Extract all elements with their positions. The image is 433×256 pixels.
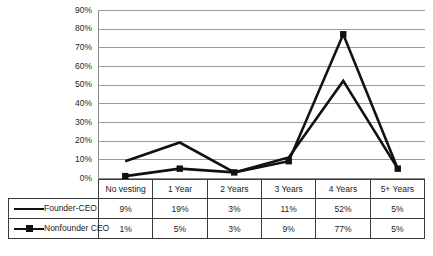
table-row: Nonfounder CEO1%5%3%9%77%5% xyxy=(9,219,424,238)
table-cell-value: 11% xyxy=(262,199,316,218)
data-table: Founder-CEO9%19%3%11%52%5%Nonfounder CEO… xyxy=(8,198,425,239)
line-chart: 0%10%20%30%40%50%60%70%80%90% No vesting… xyxy=(0,0,433,256)
category-label: 3 Years xyxy=(262,180,316,198)
legend-swatch-icon xyxy=(14,223,44,235)
table-cell-value: 1% xyxy=(99,219,153,238)
y-axis-tick-label: 70% xyxy=(75,43,92,52)
y-axis-tick-label: 10% xyxy=(75,155,92,164)
table-cell-value: 9% xyxy=(99,199,153,218)
table-cell-value: 5% xyxy=(371,199,424,218)
series-marker xyxy=(231,169,237,175)
table-cell-value: 3% xyxy=(208,219,262,238)
y-axis-tick-label: 20% xyxy=(75,136,92,145)
category-label: 5+ Years xyxy=(371,180,424,198)
table-cell-value: 5% xyxy=(153,219,207,238)
series-marker xyxy=(286,158,292,164)
y-axis-tick-label: 90% xyxy=(75,6,92,15)
table-cell-value: 77% xyxy=(316,219,370,238)
y-axis-tick-label: 0% xyxy=(80,174,92,183)
legend-label: Founder-CEO xyxy=(44,204,97,213)
y-axis-tick-label: 60% xyxy=(75,62,92,71)
table-cell-value: 9% xyxy=(262,219,316,238)
y-axis-tick-labels: 0%10%20%30%40%50%60%70%80%90% xyxy=(60,0,96,188)
series-marker xyxy=(395,165,401,171)
series-line xyxy=(125,81,398,172)
table-row: Founder-CEO9%19%3%11%52%5% xyxy=(9,199,424,219)
legend-entry: Nonfounder CEO xyxy=(9,219,99,238)
y-axis-tick-label: 40% xyxy=(75,99,92,108)
y-axis-tick-label: 50% xyxy=(75,80,92,89)
series-marker xyxy=(177,165,183,171)
category-label: No vesting xyxy=(99,180,153,198)
series-marker xyxy=(340,31,346,37)
table-cell-value: 3% xyxy=(208,199,262,218)
series-lines xyxy=(98,10,425,178)
category-label: 1 Year xyxy=(153,180,207,198)
y-axis-tick-label: 30% xyxy=(75,118,92,127)
category-label: 2 Years xyxy=(208,180,262,198)
legend-swatch-icon xyxy=(14,203,44,215)
plot-area xyxy=(98,10,425,178)
table-cell-value: 5% xyxy=(371,219,424,238)
y-axis-tick-label: 80% xyxy=(75,24,92,33)
table-cell-value: 19% xyxy=(153,199,207,218)
legend-entry: Founder-CEO xyxy=(9,199,99,218)
table-cell-value: 52% xyxy=(316,199,370,218)
category-label: 4 Years xyxy=(316,180,370,198)
category-header-row: No vesting1 Year2 Years3 Years4 Years5+ … xyxy=(98,179,425,198)
